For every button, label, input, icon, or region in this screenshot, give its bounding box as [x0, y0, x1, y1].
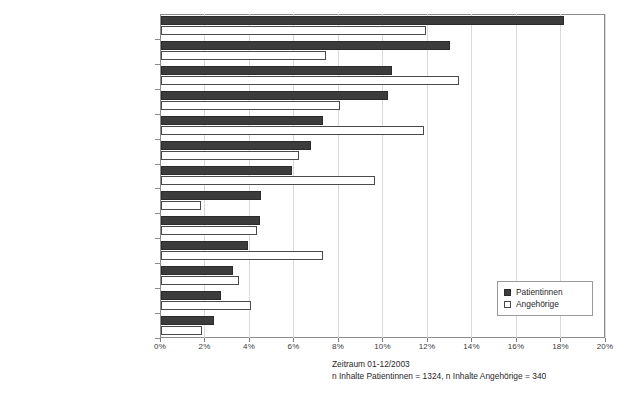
y-tick-mark [155, 188, 160, 189]
bar-angehoerige [161, 276, 239, 285]
x-tick-label: 2% [199, 342, 211, 351]
y-tick-mark [155, 288, 160, 289]
y-tick-mark [155, 89, 160, 90]
y-tick-mark [155, 313, 160, 314]
legend-label-angehoerige: Angehörige [516, 298, 559, 310]
y-tick-mark [155, 338, 160, 339]
x-tick-label: 20% [597, 342, 614, 351]
gridline [427, 14, 428, 338]
bar-patientinnen [161, 66, 392, 75]
x-tick-label: 8% [332, 342, 344, 351]
gridline [382, 14, 383, 338]
y-tick-mark [155, 39, 160, 40]
bar-patientinnen [161, 41, 450, 50]
caption-line-1: Zeitraum 01-12/2003 [332, 358, 546, 370]
bar-angehoerige [161, 151, 299, 160]
bar-angehoerige [161, 251, 323, 260]
bar-patientinnen [161, 166, 292, 175]
bar-chart: 0%2%4%6%8%10%12%14%16%18%20% Hormonthera… [0, 0, 631, 393]
x-tick-label: 12% [419, 342, 436, 351]
bar-patientinnen [161, 216, 260, 225]
y-tick-mark [155, 238, 160, 239]
legend-item-angehoerige: Angehörige [504, 298, 586, 310]
gridline [605, 14, 606, 338]
bar-angehoerige [161, 76, 459, 85]
bar-patientinnen [161, 291, 221, 300]
legend: Patientinnen Angehörige [497, 281, 593, 316]
x-tick-label: 16% [508, 342, 525, 351]
y-tick-mark [155, 139, 160, 140]
x-tick-label: 10% [374, 342, 391, 351]
legend-label-patientinnen: Patientinnen [516, 286, 563, 298]
legend-swatch-patientinnen [504, 289, 511, 296]
bar-patientinnen [161, 116, 323, 125]
y-tick-mark [155, 114, 160, 115]
bar-angehoerige [161, 26, 426, 35]
gridline [471, 14, 472, 338]
bar-patientinnen [161, 241, 248, 250]
bar-angehoerige [161, 326, 202, 335]
bar-angehoerige [161, 126, 424, 135]
bar-angehoerige [161, 176, 375, 185]
x-tick-label: 14% [463, 342, 480, 351]
legend-item-patientinnen: Patientinnen [504, 286, 586, 298]
bar-patientinnen [161, 316, 214, 325]
caption-line-2: n Inhalte Patientinnen = 1324, n Inhalte… [332, 370, 546, 382]
bar-angehoerige [161, 226, 257, 235]
bar-angehoerige [161, 51, 326, 60]
y-tick-mark [155, 164, 160, 165]
x-tick-label: 18% [552, 342, 569, 351]
chart-caption: Zeitraum 01-12/2003 n Inhalte Patientinn… [332, 358, 546, 382]
y-tick-mark [155, 263, 160, 264]
bar-patientinnen [161, 266, 233, 275]
bar-angehoerige [161, 301, 251, 310]
x-tick-label: 4% [243, 342, 255, 351]
y-tick-mark [155, 64, 160, 65]
x-tick-label: 6% [288, 342, 300, 351]
bar-patientinnen [161, 191, 261, 200]
legend-swatch-angehoerige [504, 301, 511, 308]
bar-angehoerige [161, 201, 201, 210]
bar-angehoerige [161, 101, 340, 110]
y-tick-mark [155, 213, 160, 214]
x-tick-label: 0% [154, 342, 166, 351]
bar-patientinnen [161, 16, 564, 25]
bar-patientinnen [161, 91, 388, 100]
bar-patientinnen [161, 141, 311, 150]
